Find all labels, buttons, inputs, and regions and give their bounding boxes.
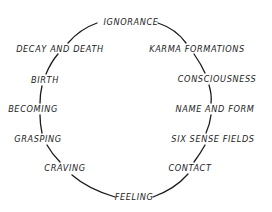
- edge-grasping-becoming: [40, 115, 42, 133]
- node-consciousness: CONSCIOUSNESS: [178, 75, 256, 83]
- node-decay-and-death: DECAY AND DEATH: [16, 45, 104, 53]
- edge-craving-grasping: [47, 145, 60, 162]
- edge-feeling-craving: [72, 175, 115, 197]
- edge-contact-feeling: [153, 174, 188, 197]
- node-name-and-form: NAME AND FORM: [176, 105, 255, 113]
- edge-ignorance-karma-formations: [158, 23, 186, 43]
- edge-consciousness-name-and-form: [209, 85, 211, 103]
- node-craving: CRAVING: [44, 164, 85, 172]
- node-karma-formations: KARMA FORMATIONS: [149, 45, 245, 53]
- node-contact: CONTACT: [168, 164, 211, 172]
- edge-decay-and-death-ignorance: [68, 23, 97, 43]
- edge-six-sense-fields-contact: [194, 145, 205, 162]
- node-birth: BIRTH: [31, 76, 59, 84]
- edge-name-and-form-six-sense-fields: [206, 115, 211, 133]
- edge-becoming-birth: [40, 86, 42, 103]
- node-becoming: BECOMING: [8, 105, 58, 113]
- edge-karma-formations-consciousness: [194, 54, 205, 73]
- node-grasping: GRASPING: [14, 135, 61, 143]
- node-feeling: FEELING: [115, 193, 154, 201]
- edge-birth-decay-and-death: [46, 54, 58, 74]
- node-six-sense-fields: SIX SENSE FIELDS: [171, 135, 254, 143]
- node-ignorance: IGNORANCE: [103, 18, 158, 26]
